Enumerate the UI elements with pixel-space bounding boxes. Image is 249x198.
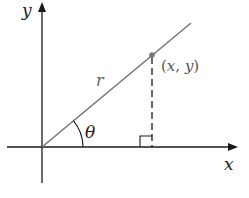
angle-arc (74, 121, 84, 147)
radius-label: r (96, 71, 105, 90)
y-axis-label: y (21, 0, 32, 20)
point-marker (149, 52, 155, 58)
angle-label: θ (85, 122, 95, 142)
right-angle-marker (140, 136, 152, 147)
polar-diagram: y x r θ (x, y) (0, 0, 249, 198)
x-axis-label: x (224, 154, 234, 174)
radius-ray (42, 23, 191, 147)
point-label: (x, y) (161, 57, 199, 75)
